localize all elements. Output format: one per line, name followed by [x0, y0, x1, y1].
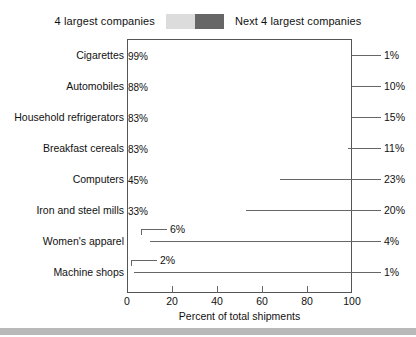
bar-value-label: 45% [128, 173, 148, 188]
callout-value-label: 4% [384, 234, 399, 249]
callout-value-label: 11% [384, 141, 404, 156]
x-axis-tick-labels: 0 20 40 60 80 100 [100, 295, 390, 309]
dark-series-callout-labels: 1% 10% 15% 11% 23% 20% 4% 1% [352, 39, 416, 293]
callout-value-label: 10% [384, 79, 405, 94]
chart-figure: 4 largest companies Next 4 largest compa… [0, 0, 416, 337]
x-tick-label: 0 [124, 295, 130, 307]
legend-swatch-light [166, 14, 195, 29]
small-bar-value-label: 6% [170, 223, 185, 235]
callout-value-label: 1% [384, 265, 399, 280]
x-tick-label: 20 [166, 295, 178, 307]
x-axis-title: Percent of total shipments [127, 310, 352, 322]
x-tick-label: 60 [256, 295, 268, 307]
callout-value-label: 1% [384, 48, 399, 63]
legend-label-4-largest: 4 largest companies [55, 15, 155, 27]
legend-swatches [166, 14, 224, 29]
category-label: Machine shops [2, 265, 124, 280]
legend-swatch-dark [195, 14, 224, 29]
bar-value-label: 33% [128, 204, 148, 219]
bar-value-label: 88% [128, 80, 148, 95]
category-label: Computers [2, 172, 124, 187]
category-label: Women's apparel [2, 234, 124, 249]
category-label: Breakfast cereals [2, 141, 124, 156]
x-tick-label: 80 [301, 295, 313, 307]
category-label: Iron and steel mills [2, 203, 124, 218]
category-label: Cigarettes [2, 48, 124, 63]
bar-value-label: 83% [128, 111, 148, 126]
bottom-decorative-bar [0, 328, 416, 335]
category-axis-labels: Cigarettes Automobiles Household refrige… [0, 39, 124, 293]
x-tick-label: 100 [343, 295, 361, 307]
chart-legend: 4 largest companies Next 4 largest compa… [0, 12, 416, 30]
category-label: Automobiles [2, 79, 124, 94]
small-bar-value-label: 2% [160, 254, 175, 266]
callout-value-label: 20% [384, 203, 405, 218]
callout-value-label: 15% [384, 110, 405, 125]
bar-value-label: 99% [128, 49, 148, 64]
category-label: Household refrigerators [2, 110, 124, 125]
callout-value-label: 23% [384, 172, 405, 187]
x-tick-label: 40 [211, 295, 223, 307]
legend-label-next-4-largest: Next 4 largest companies [235, 15, 362, 27]
bar-value-label: 83% [128, 142, 148, 157]
